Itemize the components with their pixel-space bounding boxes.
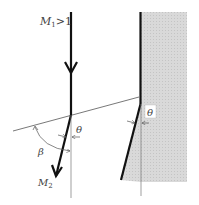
theta-arc-wall-left — [127, 121, 135, 123]
downstream-streamline — [56, 115, 71, 176]
wall-body — [141, 12, 187, 182]
deflection-angle-wall-label: θ — [147, 107, 153, 118]
upstream-mach-label: M1>1 — [39, 15, 72, 29]
wave-angle-label: β — [37, 146, 44, 157]
oblique-shock-diagram: M1>1 M2 β θ θ — [0, 0, 199, 205]
downstream-mach-label: M2 — [37, 177, 53, 190]
deflection-angle-flow-label: θ — [76, 124, 82, 135]
